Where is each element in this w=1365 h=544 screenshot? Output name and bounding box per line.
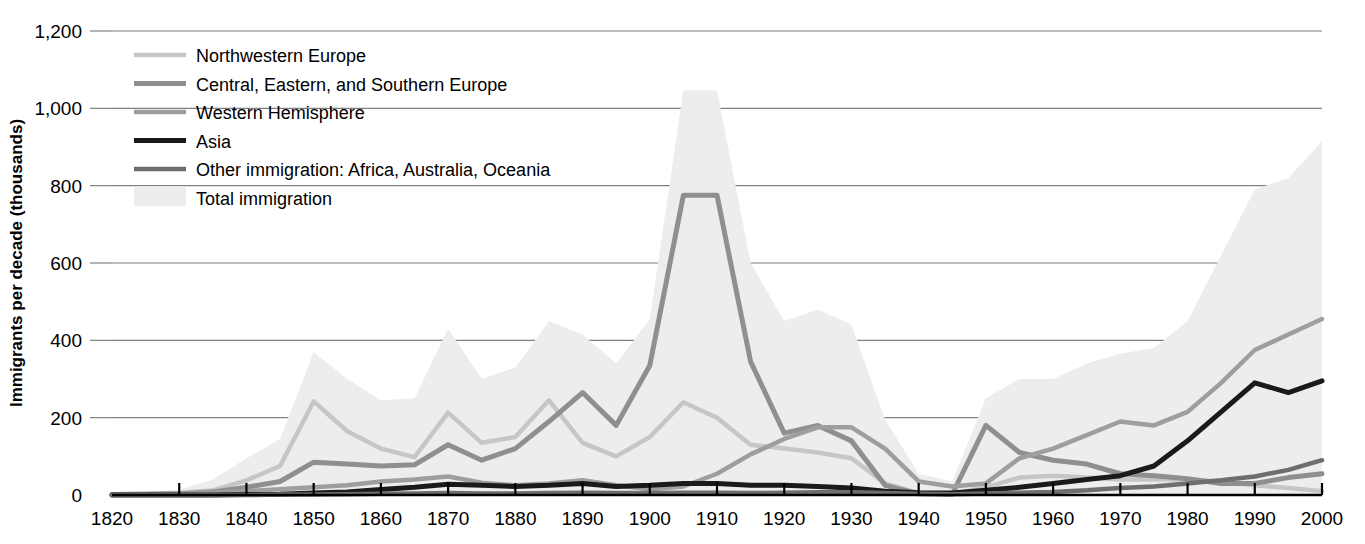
x-tick-label-1940: 1940: [898, 508, 940, 529]
x-tick-label-1880: 1880: [494, 508, 536, 529]
legend-label-4: Other immigration: Africa, Australia, Oc…: [196, 160, 551, 180]
legend-label-0: Northwestern Europe: [196, 46, 366, 66]
legend-label-3: Asia: [196, 132, 232, 152]
y-tick-label-1200: 1,200: [34, 21, 82, 42]
total-immigration-area: [112, 90, 1322, 495]
x-tick-label-1820: 1820: [91, 508, 133, 529]
x-tick-label-1930: 1930: [830, 508, 872, 529]
immigration-chart: 02004006008001,0001,200 1820183018401850…: [0, 0, 1365, 544]
y-axis-ticks: 02004006008001,0001,200: [34, 21, 112, 506]
x-tick-label-1980: 1980: [1166, 508, 1208, 529]
x-tick-label-1900: 1900: [629, 508, 671, 529]
y-tick-label-200: 200: [50, 408, 82, 429]
x-tick-label-1860: 1860: [360, 508, 402, 529]
y-axis-title-text: Immigrants per decade (thousands): [7, 119, 26, 407]
legend-label-2: Western Hemisphere: [196, 103, 365, 123]
y-tick-label-1000: 1,000: [34, 98, 82, 119]
legend-label-5: Total immigration: [196, 189, 332, 209]
x-tick-label-1970: 1970: [1099, 508, 1141, 529]
x-tick-label-1890: 1890: [561, 508, 603, 529]
area-total-immigration: [112, 90, 1322, 495]
legend-swatch-total-immigration: [134, 187, 186, 207]
x-tick-label-1990: 1990: [1234, 508, 1276, 529]
legend-label-1: Central, Eastern, and Southern Europe: [196, 75, 507, 95]
x-tick-label-1910: 1910: [696, 508, 738, 529]
chart-legend: Northwestern EuropeCentral, Eastern, and…: [134, 46, 551, 209]
x-tick-label-2000: 2000: [1301, 508, 1343, 529]
x-tick-label-1850: 1850: [293, 508, 335, 529]
y-axis-title: Immigrants per decade (thousands): [7, 119, 26, 407]
x-tick-label-1920: 1920: [763, 508, 805, 529]
y-tick-label-800: 800: [50, 176, 82, 197]
x-tick-label-1840: 1840: [225, 508, 267, 529]
x-tick-label-1830: 1830: [158, 508, 200, 529]
y-tick-label-400: 400: [50, 330, 82, 351]
x-tick-label-1870: 1870: [427, 508, 469, 529]
chart-canvas: 02004006008001,0001,200 1820183018401850…: [0, 0, 1365, 544]
x-tick-label-1950: 1950: [965, 508, 1007, 529]
y-tick-label-0: 0: [71, 485, 82, 506]
x-tick-label-1960: 1960: [1032, 508, 1074, 529]
y-tick-label-600: 600: [50, 253, 82, 274]
